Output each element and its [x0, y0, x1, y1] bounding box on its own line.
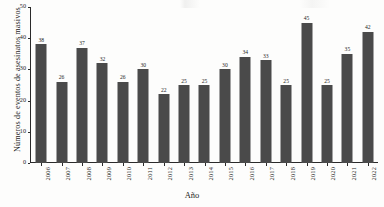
y-tick-mark: [28, 132, 31, 133]
bar-value-label: 25: [283, 78, 289, 84]
x-tick-label: 2017: [268, 167, 275, 180]
x-tick-mark: [143, 163, 144, 166]
x-tick-label: 2011: [146, 167, 153, 180]
bar-slot: 25: [194, 7, 214, 163]
bar: [240, 57, 251, 163]
y-tick-label: 50: [20, 2, 26, 9]
bar-slot: 26: [113, 7, 133, 163]
bar-slot: 35: [337, 7, 357, 163]
bar-slot: 42: [358, 7, 378, 163]
y-tick-mark: [28, 7, 31, 8]
bar-value-label: 25: [181, 78, 187, 84]
x-tick-label: 2019: [309, 167, 316, 180]
x-tick-label: 2007: [64, 167, 71, 180]
bar-slot: 38: [31, 7, 51, 163]
x-tick-label: 2021: [350, 167, 357, 180]
bar: [281, 85, 292, 163]
x-tick-label: 2018: [289, 167, 296, 180]
y-tick-label: 40: [20, 33, 26, 40]
bars-layer: 3826373226302225253034332545253542: [31, 7, 378, 163]
x-tick-mark: [266, 163, 267, 166]
bar: [179, 85, 190, 163]
x-tick-label: 2013: [187, 167, 194, 180]
bar-slot: 30: [215, 7, 235, 163]
y-tick-label: 20: [20, 96, 26, 103]
bar: [260, 60, 271, 163]
x-tick-label: 2016: [248, 167, 255, 180]
x-tick-mark: [164, 163, 165, 166]
x-tick-mark: [184, 163, 185, 166]
x-tick-label: 2014: [207, 167, 214, 180]
bar-value-label: 33: [263, 53, 269, 59]
bar: [301, 23, 312, 163]
x-tick-mark: [102, 163, 103, 166]
bar: [138, 69, 149, 163]
y-tick-mark: [28, 69, 31, 70]
x-tick-mark: [123, 163, 124, 166]
x-tick-mark: [225, 163, 226, 166]
x-tick-label: 2022: [370, 167, 377, 180]
x-tick-mark: [347, 163, 348, 166]
x-axis-title: Año: [0, 190, 384, 200]
bar-value-label: 25: [324, 78, 330, 84]
bar: [199, 85, 210, 163]
bar: [97, 63, 108, 163]
bar-value-label: 38: [38, 37, 44, 43]
bar-value-label: 25: [202, 78, 208, 84]
x-tick-mark: [245, 163, 246, 166]
x-tick-mark: [205, 163, 206, 166]
bar-value-label: 26: [120, 74, 126, 80]
bar-value-label: 37: [79, 40, 85, 46]
x-tick-label: 2008: [85, 167, 92, 180]
bar: [219, 69, 230, 163]
x-tick-mark: [368, 163, 369, 166]
y-tick-mark: [28, 38, 31, 39]
bar-slot: 33: [256, 7, 276, 163]
x-tick-mark: [327, 163, 328, 166]
y-tick-mark: [28, 101, 31, 102]
x-tick-mark: [82, 163, 83, 166]
bar: [117, 82, 128, 163]
bar-slot: 32: [92, 7, 112, 163]
y-tick-label: 30: [20, 64, 26, 71]
y-axis-title: Números de eventos de asesinatos masivos: [13, 0, 22, 160]
bar: [36, 44, 47, 163]
x-tick-label: 2009: [105, 167, 112, 180]
bar: [158, 94, 169, 163]
x-tick-mark: [41, 163, 42, 166]
bar-value-label: 22: [161, 87, 167, 93]
x-tick-mark: [307, 163, 308, 166]
bar-value-label: 32: [100, 56, 106, 62]
plot-area: 01020304050 3826373226302225253034332545…: [30, 7, 378, 163]
bar-value-label: 45: [304, 15, 310, 21]
x-tick-label: 2020: [329, 167, 336, 180]
bar-slot: 34: [235, 7, 255, 163]
bar-slot: 45: [296, 7, 316, 163]
bar: [77, 48, 88, 163]
bar-value-label: 30: [140, 62, 146, 68]
bar: [342, 54, 353, 163]
bar-value-label: 34: [243, 49, 249, 55]
bar-slot: 25: [174, 7, 194, 163]
bar-slot: 30: [133, 7, 153, 163]
y-tick-label: 10: [20, 127, 26, 134]
bar-chart-figure: Números de eventos de asesinatos masivos…: [0, 0, 384, 207]
bar-slot: 25: [276, 7, 296, 163]
bar-slot: 25: [317, 7, 337, 163]
bar-value-label: 35: [345, 46, 351, 52]
x-tick-label: 2012: [166, 167, 173, 180]
bar-value-label: 26: [59, 74, 65, 80]
bar: [321, 85, 332, 163]
x-tick-label: 2006: [44, 167, 51, 180]
x-tick-mark: [62, 163, 63, 166]
bar-value-label: 42: [365, 24, 371, 30]
x-tick-label: 2015: [227, 167, 234, 180]
x-tick-mark: [286, 163, 287, 166]
bar-slot: 37: [72, 7, 92, 163]
y-tick-label: 0: [23, 158, 26, 165]
x-tick-label: 2010: [125, 167, 132, 180]
bar-value-label: 30: [222, 62, 228, 68]
y-tick-mark: [28, 163, 31, 164]
bar-slot: 22: [153, 7, 173, 163]
bar: [56, 82, 67, 163]
